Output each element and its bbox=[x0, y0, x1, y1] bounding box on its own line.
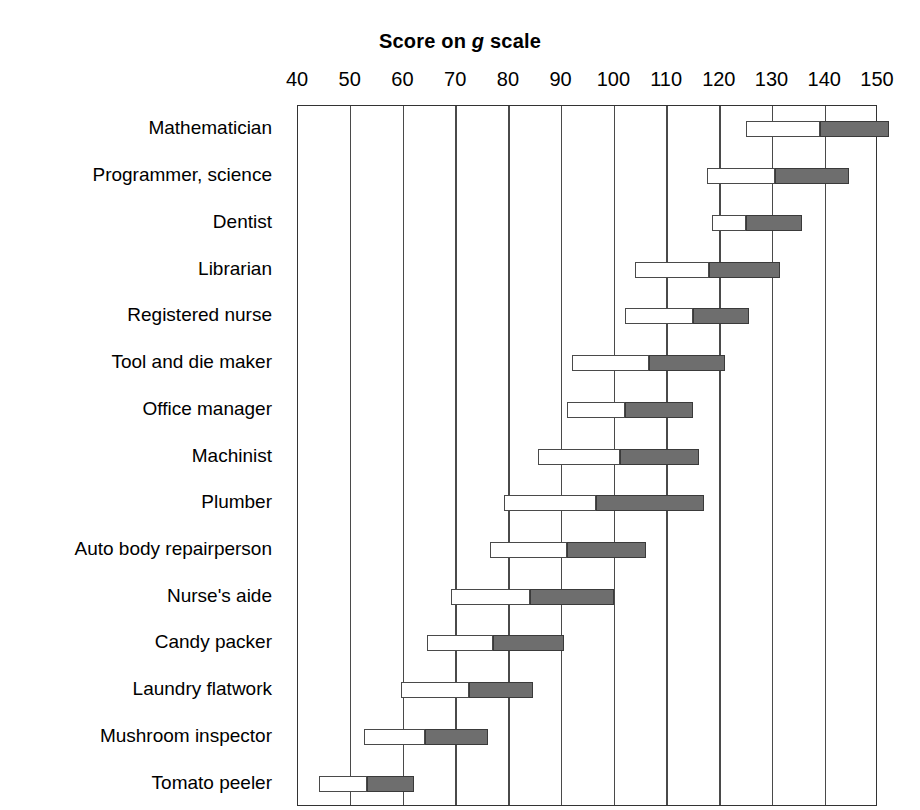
bar-row bbox=[298, 542, 876, 558]
chart-title-suffix: scale bbox=[484, 30, 541, 52]
bar-segment-low bbox=[319, 776, 366, 792]
x-tick-label: 110 bbox=[650, 68, 682, 91]
bar-segment-high bbox=[693, 308, 748, 324]
category-label: Programmer, science bbox=[92, 164, 272, 186]
bar-segment-low bbox=[538, 449, 620, 465]
x-tick-label: 100 bbox=[597, 68, 630, 91]
bar-segment-low bbox=[504, 495, 596, 511]
chart-title: Score on g scale bbox=[0, 30, 920, 53]
bar-row bbox=[298, 308, 876, 324]
bar-segment-high bbox=[649, 355, 725, 371]
bar-row bbox=[298, 449, 876, 465]
bar-row bbox=[298, 635, 876, 651]
bar-segment-high bbox=[625, 402, 694, 418]
category-label: Registered nurse bbox=[127, 304, 272, 326]
bar-segment-low bbox=[572, 355, 648, 371]
bar-segment-low bbox=[490, 542, 566, 558]
bar-segment-low bbox=[401, 682, 470, 698]
bar-row bbox=[298, 402, 876, 418]
y-axis-category-labels: MathematicianProgrammer, scienceDentistL… bbox=[0, 105, 285, 806]
category-label: Mushroom inspector bbox=[100, 725, 272, 747]
bar-row bbox=[298, 215, 876, 231]
category-label: Candy packer bbox=[155, 631, 272, 653]
bar-segment-low bbox=[567, 402, 625, 418]
bar-row bbox=[298, 121, 876, 137]
x-tick-label: 140 bbox=[808, 68, 841, 91]
chart-title-italic-g: g bbox=[472, 30, 484, 52]
bar-segment-high bbox=[493, 635, 564, 651]
bar-row bbox=[298, 776, 876, 792]
bar-segment-low bbox=[427, 635, 493, 651]
bar-row bbox=[298, 495, 876, 511]
bar-segment-high bbox=[530, 589, 614, 605]
bar-segment-high bbox=[425, 729, 488, 745]
bar-segment-low bbox=[635, 262, 709, 278]
chart-title-prefix: Score on bbox=[379, 30, 472, 52]
bar-segment-low bbox=[364, 729, 425, 745]
bar-segment-high bbox=[596, 495, 704, 511]
bar-segment-high bbox=[709, 262, 780, 278]
plot-area bbox=[297, 105, 877, 806]
x-tick-label: 150 bbox=[860, 68, 893, 91]
category-label: Tool and die maker bbox=[111, 351, 272, 373]
x-tick-label: 40 bbox=[286, 68, 308, 91]
bar-segment-low bbox=[746, 121, 820, 137]
bar-segment-high bbox=[775, 168, 849, 184]
category-label: Machinist bbox=[192, 445, 272, 467]
bar-row bbox=[298, 262, 876, 278]
bar-segment-low bbox=[625, 308, 694, 324]
category-label: Nurse's aide bbox=[167, 585, 272, 607]
x-tick-label: 130 bbox=[755, 68, 788, 91]
x-tick-label: 70 bbox=[444, 68, 466, 91]
category-label: Librarian bbox=[198, 258, 272, 280]
bar-segment-low bbox=[451, 589, 530, 605]
x-axis-tick-labels: 405060708090100110120130140150 bbox=[0, 68, 920, 98]
x-tick-label: 80 bbox=[497, 68, 519, 91]
bar-row bbox=[298, 168, 876, 184]
x-tick-label: 120 bbox=[702, 68, 735, 91]
category-label: Office manager bbox=[142, 398, 272, 420]
bar-segment-low bbox=[707, 168, 776, 184]
bar-segment-high bbox=[469, 682, 532, 698]
x-tick-label: 50 bbox=[339, 68, 361, 91]
bar-row bbox=[298, 729, 876, 745]
category-label: Plumber bbox=[201, 491, 272, 513]
bar-segment-high bbox=[820, 121, 889, 137]
category-label: Tomato peeler bbox=[152, 772, 272, 794]
category-label: Dentist bbox=[213, 211, 272, 233]
bar-segment-high bbox=[567, 542, 646, 558]
bar-segment-low bbox=[712, 215, 746, 231]
category-label: Laundry flatwork bbox=[133, 678, 272, 700]
bar-segment-high bbox=[620, 449, 699, 465]
x-tick-label: 60 bbox=[391, 68, 413, 91]
bar-row bbox=[298, 589, 876, 605]
bar-row bbox=[298, 355, 876, 371]
category-label: Auto body repairperson bbox=[74, 538, 272, 560]
bar-segment-high bbox=[746, 215, 801, 231]
category-label: Mathematician bbox=[148, 117, 272, 139]
x-tick-label: 90 bbox=[550, 68, 572, 91]
chart-root: Score on g scale 40506070809010011012013… bbox=[0, 0, 920, 810]
bar-row bbox=[298, 682, 876, 698]
bar-segment-high bbox=[367, 776, 414, 792]
